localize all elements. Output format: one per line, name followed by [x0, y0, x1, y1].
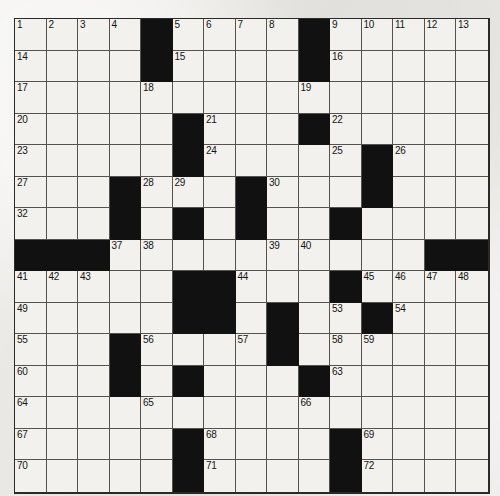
letter-cell[interactable] [425, 334, 457, 366]
letter-cell[interactable]: 40 [299, 240, 331, 272]
letter-cell[interactable] [204, 177, 236, 209]
letter-cell[interactable] [110, 82, 142, 114]
letter-cell[interactable] [267, 208, 299, 240]
letter-cell[interactable] [47, 366, 79, 398]
letter-cell[interactable] [456, 51, 488, 83]
letter-cell[interactable] [362, 82, 394, 114]
letter-cell[interactable]: 24 [204, 145, 236, 177]
letter-cell[interactable] [393, 397, 425, 429]
letter-cell[interactable] [47, 177, 79, 209]
letter-cell[interactable] [141, 460, 173, 492]
letter-cell[interactable]: 29 [173, 177, 205, 209]
letter-cell[interactable] [110, 397, 142, 429]
letter-cell[interactable] [236, 240, 268, 272]
letter-cell[interactable] [267, 114, 299, 146]
letter-cell[interactable] [456, 145, 488, 177]
letter-cell[interactable] [267, 82, 299, 114]
letter-cell[interactable] [456, 82, 488, 114]
letter-cell[interactable]: 38 [141, 240, 173, 272]
letter-cell[interactable] [110, 145, 142, 177]
letter-cell[interactable] [393, 177, 425, 209]
letter-cell[interactable] [47, 334, 79, 366]
letter-cell[interactable] [47, 82, 79, 114]
letter-cell[interactable] [393, 114, 425, 146]
letter-cell[interactable]: 69 [362, 429, 394, 461]
letter-cell[interactable] [173, 334, 205, 366]
letter-cell[interactable] [425, 145, 457, 177]
letter-cell[interactable]: 59 [362, 334, 394, 366]
letter-cell[interactable] [236, 366, 268, 398]
letter-cell[interactable] [299, 177, 331, 209]
letter-cell[interactable] [362, 240, 394, 272]
letter-cell[interactable] [204, 334, 236, 366]
letter-cell[interactable] [425, 460, 457, 492]
letter-cell[interactable] [173, 240, 205, 272]
letter-cell[interactable] [299, 271, 331, 303]
letter-cell[interactable]: 45 [362, 271, 394, 303]
letter-cell[interactable] [204, 366, 236, 398]
letter-cell[interactable] [78, 208, 110, 240]
letter-cell[interactable] [204, 82, 236, 114]
letter-cell[interactable] [299, 429, 331, 461]
letter-cell[interactable] [267, 460, 299, 492]
letter-cell[interactable]: 39 [267, 240, 299, 272]
letter-cell[interactable] [393, 366, 425, 398]
letter-cell[interactable] [299, 303, 331, 335]
letter-cell[interactable] [173, 397, 205, 429]
letter-cell[interactable] [425, 366, 457, 398]
letter-cell[interactable]: 30 [267, 177, 299, 209]
letter-cell[interactable]: 16 [330, 51, 362, 83]
letter-cell[interactable] [299, 208, 331, 240]
letter-cell[interactable] [141, 114, 173, 146]
letter-cell[interactable]: 72 [362, 460, 394, 492]
letter-cell[interactable] [236, 460, 268, 492]
letter-cell[interactable]: 71 [204, 460, 236, 492]
letter-cell[interactable]: 11 [393, 19, 425, 51]
letter-cell[interactable] [236, 114, 268, 146]
letter-cell[interactable] [47, 460, 79, 492]
letter-cell[interactable] [204, 51, 236, 83]
letter-cell[interactable] [456, 114, 488, 146]
letter-cell[interactable] [362, 208, 394, 240]
letter-cell[interactable] [110, 51, 142, 83]
letter-cell[interactable] [456, 366, 488, 398]
letter-cell[interactable]: 49 [15, 303, 47, 335]
letter-cell[interactable] [78, 82, 110, 114]
letter-cell[interactable] [456, 177, 488, 209]
letter-cell[interactable]: 57 [236, 334, 268, 366]
letter-cell[interactable]: 22 [330, 114, 362, 146]
letter-cell[interactable]: 1 [15, 19, 47, 51]
letter-cell[interactable]: 15 [173, 51, 205, 83]
letter-cell[interactable] [267, 271, 299, 303]
letter-cell[interactable]: 13 [456, 19, 488, 51]
letter-cell[interactable] [47, 114, 79, 146]
letter-cell[interactable]: 66 [299, 397, 331, 429]
letter-cell[interactable] [330, 240, 362, 272]
letter-cell[interactable]: 64 [15, 397, 47, 429]
letter-cell[interactable] [299, 334, 331, 366]
letter-cell[interactable] [47, 429, 79, 461]
letter-cell[interactable]: 18 [141, 82, 173, 114]
letter-cell[interactable]: 54 [393, 303, 425, 335]
letter-cell[interactable]: 20 [15, 114, 47, 146]
letter-cell[interactable]: 48 [456, 271, 488, 303]
letter-cell[interactable] [330, 177, 362, 209]
letter-cell[interactable] [425, 114, 457, 146]
letter-cell[interactable] [204, 240, 236, 272]
letter-cell[interactable]: 58 [330, 334, 362, 366]
letter-cell[interactable]: 41 [15, 271, 47, 303]
letter-cell[interactable] [425, 177, 457, 209]
letter-cell[interactable]: 67 [15, 429, 47, 461]
letter-cell[interactable] [236, 429, 268, 461]
letter-cell[interactable]: 7 [236, 19, 268, 51]
letter-cell[interactable] [47, 145, 79, 177]
letter-cell[interactable]: 23 [15, 145, 47, 177]
letter-cell[interactable] [267, 397, 299, 429]
letter-cell[interactable] [110, 303, 142, 335]
letter-cell[interactable] [236, 397, 268, 429]
letter-cell[interactable] [393, 82, 425, 114]
letter-cell[interactable] [78, 366, 110, 398]
letter-cell[interactable] [141, 208, 173, 240]
letter-cell[interactable]: 17 [15, 82, 47, 114]
letter-cell[interactable] [78, 177, 110, 209]
